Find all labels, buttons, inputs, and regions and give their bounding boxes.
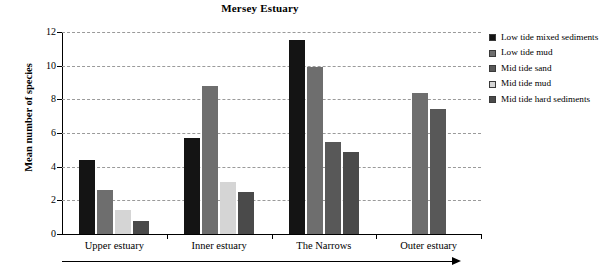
bar	[220, 182, 236, 234]
y-axis-tick-label: 6	[32, 128, 56, 138]
legend-item: Low tide mixed sediments	[489, 31, 607, 44]
x-axis-category-label: Outer estuary	[376, 240, 481, 251]
y-axis-tick	[57, 167, 62, 168]
x-axis-category-label: The Narrows	[272, 240, 377, 251]
bar	[133, 221, 149, 234]
legend-label: Low tide mixed sediments	[501, 33, 598, 43]
bar	[79, 160, 95, 234]
x-axis-category-label: Upper estuary	[62, 240, 167, 251]
y-axis-tick	[57, 234, 62, 235]
x-axis-category-label: Inner estuary	[167, 240, 272, 251]
legend-swatch	[489, 96, 496, 103]
bar	[412, 93, 428, 234]
x-axis-tick	[376, 234, 377, 239]
y-axis-tick-label: 12	[32, 27, 56, 37]
legend-item: Low tide mud	[489, 47, 607, 60]
y-axis-tick	[57, 99, 62, 100]
bar	[307, 67, 323, 234]
bar	[289, 40, 305, 234]
y-axis-tick	[57, 32, 62, 33]
y-axis-tick-label: 2	[32, 195, 56, 205]
bar	[97, 190, 113, 234]
bar	[202, 86, 218, 234]
legend-swatch	[489, 50, 496, 57]
gridline	[62, 32, 481, 33]
y-axis-tick-label: 10	[32, 61, 56, 71]
x-axis-tick	[481, 234, 482, 239]
legend-swatch	[489, 34, 496, 41]
legend-swatch	[489, 65, 496, 72]
y-axis-tick	[57, 133, 62, 134]
y-axis-tick-label: 4	[32, 162, 56, 172]
seaward-direction-arrow	[62, 257, 462, 267]
y-axis-tick	[57, 200, 62, 201]
bar	[115, 210, 131, 234]
bar	[343, 152, 359, 234]
legend-label: Low tide mud	[501, 48, 553, 58]
y-axis-tick-label: 8	[32, 94, 56, 104]
chart-title: Mersey Estuary	[100, 2, 420, 14]
bar-chart: Mersey Estuary Mean number of species 02…	[0, 0, 608, 269]
arrow-line	[62, 261, 454, 262]
legend-item: Mid tide hard sediments	[489, 93, 607, 106]
bar	[325, 142, 341, 234]
y-axis-tick	[57, 66, 62, 67]
bar	[184, 138, 200, 234]
bar	[238, 192, 254, 234]
x-axis-tick	[167, 234, 168, 239]
y-axis-tick-label: 0	[32, 229, 56, 239]
legend-item: Mid tide mud	[489, 78, 607, 91]
plot-area: 024681012 Upper estuaryInner estuaryThe …	[62, 32, 481, 235]
arrow-head-icon	[452, 257, 461, 265]
gridline	[62, 66, 481, 67]
legend-label: Mid tide hard sediments	[501, 95, 590, 105]
legend-item: Mid tide sand	[489, 62, 607, 75]
legend-label: Mid tide sand	[501, 64, 552, 74]
legend-swatch	[489, 81, 496, 88]
x-axis-tick	[272, 234, 273, 239]
legend-label: Mid tide mud	[501, 79, 551, 89]
chart-legend: Low tide mixed sedimentsLow tide mudMid …	[489, 31, 607, 109]
bar	[430, 109, 446, 234]
